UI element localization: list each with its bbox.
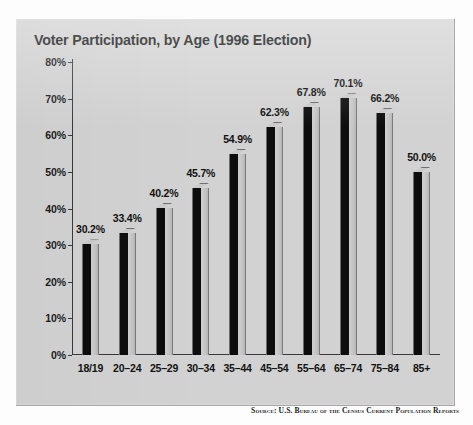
bar-value-label: 45.7%: [186, 167, 215, 179]
bar-side-face: [165, 208, 173, 355]
y-axis-tick-label: 40%: [45, 203, 66, 215]
y-axis-tick-label: 0%: [51, 349, 66, 361]
y-axis-tick-label: 60%: [45, 129, 66, 141]
y-axis-tick-label: 30%: [45, 239, 66, 251]
bar-slot: 30.2%18/19: [72, 62, 109, 355]
bar-side-face: [201, 188, 209, 355]
bar-slot: 67.8%55–64: [293, 62, 330, 355]
plot-area: 0%10%20%30%40%50%60%70%80% 30.2%18/1933.…: [72, 62, 440, 355]
x-axis-tick-label: 35–44: [223, 362, 251, 374]
y-axis-tick-label: 80%: [45, 56, 66, 68]
x-axis-tick-label: 55–64: [297, 362, 325, 374]
bar-value-label: 50.0%: [407, 151, 436, 163]
chart-panel: Voter Participation, by Age (1996 Electi…: [16, 19, 455, 406]
x-axis-tick-label: 18/19: [78, 362, 103, 374]
bar[interactable]: [192, 188, 209, 355]
bar[interactable]: [119, 233, 136, 355]
bar[interactable]: [340, 98, 357, 355]
bar-value-label: 30.2%: [76, 223, 105, 235]
bar-side-face: [385, 113, 393, 355]
bar-value-label: 66.2%: [370, 92, 399, 104]
bar-slot: 70.1%65–74: [330, 62, 367, 355]
bar[interactable]: [82, 244, 99, 355]
x-axis-tick-label: 85+: [413, 362, 430, 374]
chart-figure: Voter Participation, by Age (1996 Electi…: [0, 0, 473, 425]
source-note: Source: U.S. Bureau of the Census Curren…: [251, 406, 459, 415]
bar-value-label: 40.2%: [150, 187, 179, 199]
bar[interactable]: [156, 208, 173, 355]
bar-side-face: [422, 172, 430, 355]
bar-side-face: [128, 233, 136, 355]
bar-slot: 54.9%35–44: [219, 62, 256, 355]
chart-title: Voter Participation, by Age (1996 Electi…: [34, 31, 311, 49]
bar-side-face: [275, 127, 283, 355]
bar[interactable]: [266, 127, 283, 355]
x-axis-tick-label: 65–74: [334, 362, 362, 374]
y-axis-tick-label: 20%: [45, 276, 66, 288]
bar-side-face: [312, 107, 320, 355]
bar-value-label: 70.1%: [334, 77, 363, 89]
y-axis-tick-label: 50%: [45, 166, 66, 178]
bar-side-face: [238, 154, 246, 355]
bar[interactable]: [229, 154, 246, 355]
x-axis-tick-label: 30–34: [187, 362, 215, 374]
x-axis-tick-label: 25–29: [150, 362, 178, 374]
bar-slot: 40.2%25–29: [146, 62, 183, 355]
bar-value-label: 62.3%: [260, 106, 289, 118]
bar-slot: 33.4%20–24: [109, 62, 146, 355]
bar-value-label: 33.4%: [113, 212, 142, 224]
bar[interactable]: [303, 107, 320, 355]
bar-value-label: 67.8%: [297, 86, 326, 98]
y-axis-tick-mark: [68, 355, 72, 356]
bar-slot: 50.0%85+: [403, 62, 440, 355]
bar-value-label: 54.9%: [223, 133, 252, 145]
x-axis-tick-label: 45–54: [260, 362, 288, 374]
bar-side-face: [91, 244, 99, 355]
bar-slot: 62.3%45–54: [256, 62, 293, 355]
bar-slot: 45.7%30–34: [182, 62, 219, 355]
y-axis-tick-label: 10%: [45, 312, 66, 324]
bar-side-face: [349, 98, 357, 355]
x-axis-tick-label: 75–84: [371, 362, 399, 374]
bar-slot: 66.2%75–84: [366, 62, 403, 355]
bar[interactable]: [413, 172, 430, 355]
bar[interactable]: [376, 113, 393, 355]
x-axis-tick-label: 20–24: [113, 362, 141, 374]
y-axis-tick-label: 70%: [45, 93, 66, 105]
